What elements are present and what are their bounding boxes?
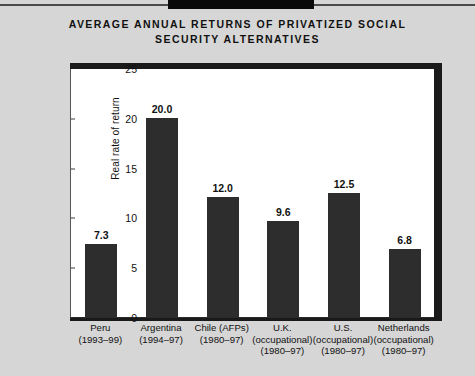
plot-area: Real rate of return 0510152025 7.320.012… bbox=[70, 69, 434, 318]
y-axis-tick-mark bbox=[71, 268, 75, 269]
bar-value-label: 9.6 bbox=[276, 206, 291, 218]
page-top-black-tab bbox=[168, 0, 314, 9]
y-axis-tick-mark bbox=[71, 218, 75, 219]
y-axis-tick-label: 20 bbox=[111, 113, 137, 125]
bar-value-label: 20.0 bbox=[152, 103, 172, 115]
y-axis-tick-label: 15 bbox=[111, 163, 137, 175]
bar bbox=[85, 244, 117, 317]
y-axis-tick-mark bbox=[71, 168, 75, 169]
bar bbox=[207, 197, 239, 317]
bar bbox=[146, 118, 178, 317]
bar-value-label: 12.0 bbox=[212, 182, 232, 194]
y-axis-tick-label: 25 bbox=[111, 63, 137, 75]
y-axis-tick-mark bbox=[71, 118, 75, 119]
bar-value-label: 6.8 bbox=[397, 234, 412, 246]
bar-value-label: 12.5 bbox=[334, 178, 354, 190]
chart-figure: AVERAGE ANNUAL RETURNS OF PRIVATIZED SOC… bbox=[0, 0, 475, 376]
chart-title: AVERAGE ANNUAL RETURNS OF PRIVATIZED SOC… bbox=[0, 17, 475, 47]
bar bbox=[267, 221, 299, 317]
y-axis-label: Real rate of return bbox=[110, 59, 121, 219]
y-axis-tick-label: 10 bbox=[111, 212, 137, 224]
x-axis-category-label: Netherlands (occupational) (1980–97) bbox=[366, 322, 441, 357]
bar-value-label: 7.3 bbox=[94, 229, 109, 241]
bar bbox=[328, 193, 360, 318]
bar bbox=[389, 249, 421, 317]
